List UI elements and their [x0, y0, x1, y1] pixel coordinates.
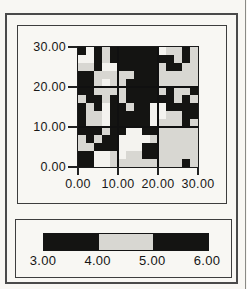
x-tick-label: 20.00: [136, 177, 180, 191]
x-tick-label: 10.00: [96, 177, 140, 191]
legend-label: 5.00: [130, 253, 174, 268]
legend-label: 3.00: [21, 253, 65, 268]
colorbar-segment: [99, 234, 154, 250]
colorbar: [43, 233, 209, 251]
scan-edge-artifact: [245, 0, 247, 289]
x-tick-mark: [197, 167, 199, 175]
colorbar-segment: [153, 234, 208, 250]
legend-panel: 3.004.005.006.00: [15, 219, 232, 278]
x-tick-mark: [77, 167, 79, 175]
x-tick-mark: [157, 167, 159, 175]
x-tick-label: 0.00: [56, 177, 100, 191]
x-tick-label: 30.00: [176, 177, 220, 191]
colorbar-segment: [44, 234, 99, 250]
legend-label: 6.00: [185, 253, 229, 268]
x-tick-mark: [117, 167, 119, 175]
legend-label: 4.00: [76, 253, 120, 268]
